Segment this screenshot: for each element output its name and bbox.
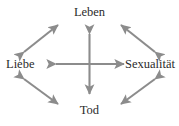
connector-top-right xyxy=(121,25,155,52)
node-label-sexualitaet: Sexualität xyxy=(125,58,175,71)
relationship-diagram: Leben Liebe Sexualität Tod xyxy=(0,0,179,126)
node-label-leben: Leben xyxy=(0,6,179,19)
node-label-liebe: Liebe xyxy=(6,58,34,71)
connector-bottom-right xyxy=(121,79,155,104)
connector-top-left xyxy=(24,25,58,52)
node-label-tod: Tod xyxy=(0,104,179,117)
connector-bottom-left xyxy=(24,79,58,104)
